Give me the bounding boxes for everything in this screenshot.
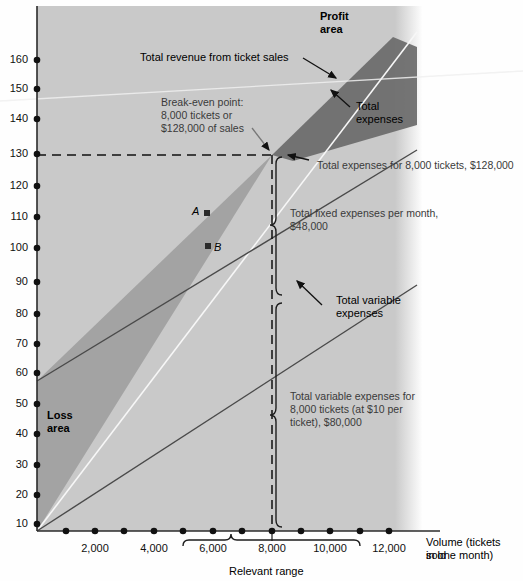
- marker-b-point: [205, 243, 211, 249]
- total-expenses-line: [37, 150, 417, 381]
- x-tick-label: 2,000: [65, 542, 125, 554]
- marker-b-label: B: [214, 241, 221, 253]
- marker-a-label: A: [192, 205, 199, 217]
- break-even-label-line1: Break-even point:: [161, 96, 243, 109]
- y-tick-label: 90: [0, 275, 28, 287]
- y-tick-label: 60: [0, 366, 28, 378]
- y-tick-label: 50: [0, 397, 28, 409]
- profit-area-label-line1: Profit: [320, 10, 349, 23]
- total-variable-expenses-label-line1: Total variable: [336, 294, 401, 307]
- x-tick-label: 8,000: [242, 542, 302, 554]
- break-even-label-line2: 8,000 tickets or: [161, 109, 232, 122]
- y-tick-label: 30: [0, 458, 28, 470]
- profit-area-label-line2: area: [320, 23, 343, 36]
- loss-area-fill: [37, 155, 272, 531]
- y-tick-label: 140: [0, 112, 28, 124]
- total-revenue-label: Total revenue from ticket sales: [140, 51, 289, 64]
- total-variable-8000-label-line2: 8,000 tickets (at $10 per: [290, 403, 403, 416]
- x-tick-label: 4,000: [124, 542, 184, 554]
- profit-area-fill: [272, 37, 417, 161]
- total-revenue-arrow: [303, 58, 336, 78]
- total-variable-expenses-label-line2: expenses: [336, 307, 383, 320]
- loss-area-label-line2: area: [47, 422, 70, 435]
- y-tick-label: 150: [0, 82, 28, 94]
- total-expenses-8000-label: Total expenses for 8,000 tickets, $128,0…: [317, 159, 514, 172]
- marker-a-point: [204, 210, 210, 216]
- y-tick-label: 70: [0, 337, 28, 349]
- chart-canvas: 160 150 140 130 120 110 100 90 80 70 60 …: [0, 0, 523, 581]
- x-tick-label: 6,000: [183, 542, 243, 554]
- y-tick-label: 100: [0, 241, 28, 253]
- y-tick-label: 20: [0, 488, 28, 500]
- total-fixed-expenses-label-line2: $48,000: [290, 220, 328, 233]
- x-tick-label: 12,000: [359, 542, 419, 554]
- y-tick-label: 10: [0, 517, 28, 529]
- break-even-label-line3: $128,000 of sales: [161, 122, 244, 135]
- x-tick-label: 10,000: [300, 542, 360, 554]
- total-variable-8000-label-line3: ticket), $80,000: [290, 416, 362, 429]
- y-tick-label: 40: [0, 427, 28, 439]
- total-fixed-expenses-label-line1: Total fixed expenses per month,: [290, 207, 438, 220]
- total-variable-expenses-arrow: [297, 281, 322, 305]
- total-expenses-label-line1: Total: [356, 100, 379, 113]
- total-expenses-label-line2: expenses: [356, 113, 403, 126]
- y-tick-label: 110: [0, 210, 28, 222]
- y-tick-label: 120: [0, 179, 28, 191]
- x-axis-title-line2: in one month): [426, 549, 493, 562]
- loss-area-label-line1: Loss: [47, 409, 73, 422]
- y-tick-label: 80: [0, 307, 28, 319]
- relevant-range-label: Relevant range: [229, 565, 304, 578]
- y-tick-label: 160: [0, 53, 28, 65]
- chart-plot: [0, 0, 523, 581]
- y-tick-label: 130: [0, 147, 28, 159]
- total-variable-8000-label-line1: Total variable expenses for: [290, 390, 415, 403]
- scan-fold-line: [0, 71, 523, 101]
- break-even-arrow: [252, 128, 269, 150]
